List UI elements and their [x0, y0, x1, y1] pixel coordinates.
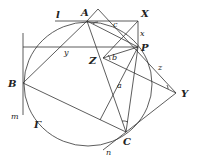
label-b-seg: b [112, 53, 117, 62]
label-c: C [123, 136, 131, 147]
label-m: m [11, 112, 19, 121]
label-y-seg: y [63, 48, 69, 57]
label-a: A [80, 7, 89, 18]
label-gamma: Γ [33, 119, 42, 130]
label-x: X [140, 8, 150, 19]
label-y: Y [181, 88, 189, 99]
label-n: n [106, 148, 111, 157]
label-p: P [140, 42, 149, 53]
angle-mark-c [122, 121, 128, 122]
label-z-seg: z [157, 63, 163, 72]
label-x-seg: x [140, 29, 145, 38]
line-n [103, 93, 176, 150]
label-l: l [56, 9, 60, 20]
geometry-figure: l A X c x P y Z b z B a Y m Γ C n [0, 0, 198, 162]
segment-zy [103, 58, 176, 93]
label-c-seg: c [113, 20, 118, 29]
label-a-seg: a [117, 81, 122, 90]
label-b: B [7, 78, 16, 89]
label-z: Z [88, 55, 97, 66]
segment-pc [126, 47, 138, 132]
